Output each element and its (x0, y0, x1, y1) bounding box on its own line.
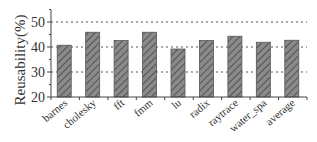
bar-fmm (143, 32, 157, 97)
bar-water_spa (256, 42, 270, 97)
y-tick-label: 50 (31, 15, 45, 30)
bar-lu (171, 49, 185, 97)
bar-radix (199, 41, 213, 98)
category-label: average (263, 96, 297, 127)
bar-chart: 20304050 barnescholeskyfftfmmluradixrayt… (0, 0, 317, 142)
bars (57, 32, 299, 97)
bar-cholesky (86, 32, 100, 97)
category-label: fmm (131, 96, 155, 119)
x-category-labels: barnescholeskyfftfmmluradixraytracewater… (40, 96, 297, 134)
bar-raytrace (228, 36, 242, 97)
category-label: fft (111, 96, 127, 112)
y-tick-label: 30 (31, 65, 45, 80)
bar-fft (114, 41, 128, 98)
category-label: lu (169, 96, 184, 111)
category-label: cholesky (60, 96, 98, 131)
y-tick-label: 20 (31, 90, 45, 105)
y-tick-label: 40 (31, 40, 45, 55)
y-axis-title: Reusability(%) (12, 15, 29, 106)
bar-average (285, 40, 299, 97)
y-tick-labels: 20304050 (31, 15, 45, 105)
bar-barnes (57, 45, 71, 97)
